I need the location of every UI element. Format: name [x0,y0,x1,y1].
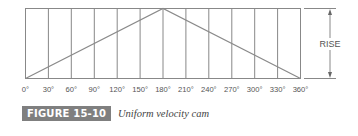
tick-label: 30° [43,85,54,94]
tick-label: 300° [247,85,263,94]
tick-label: 90° [89,85,100,94]
rise-label: RISE [319,39,340,49]
tick-label: 120° [109,85,125,94]
arrow-down-icon [328,72,332,78]
x-axis-labels: 0° 30° 60° 90° 120° 150° 180° 210° 240° … [22,85,308,94]
tick-label: 0° [22,85,29,94]
tick-label: 180° [155,85,171,94]
tick-label: 360° [293,85,309,94]
tick-label: 330° [270,85,286,94]
arrow-up-icon [328,9,332,15]
tick-label: 240° [201,85,217,94]
figure-number: FIGURE 15-10 [22,106,111,121]
tick-label: 60° [66,85,77,94]
tick-label: 210° [178,85,194,94]
figure-caption: Uniform velocity cam [118,106,209,121]
tick-label: 150° [132,85,148,94]
tick-label: 270° [224,85,240,94]
